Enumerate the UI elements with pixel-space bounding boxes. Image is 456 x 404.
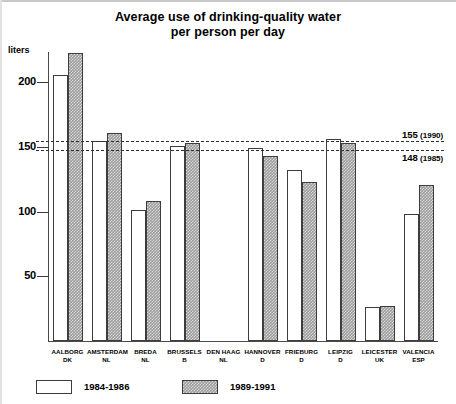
category-country-code: D	[243, 356, 282, 364]
category-country-code: B	[165, 356, 204, 364]
y-axis-tick-label: 100	[8, 205, 36, 217]
chart-legend: 1984-19861989-1991	[36, 379, 356, 399]
x-axis-category-label: AMSTERDAMNL	[87, 348, 126, 364]
legend-swatch-1989-1991	[182, 380, 218, 394]
x-axis-category-label: VALENCIAESP	[399, 348, 438, 364]
y-axis-tick-mark	[37, 212, 49, 213]
bar-aalborg-1984-1986	[53, 75, 68, 341]
category-city-name: LEICESTER	[362, 348, 398, 355]
y-axis-tick-mark	[37, 82, 49, 83]
category-country-code: D	[321, 356, 360, 364]
bar-aalborg-1989-1991	[68, 53, 83, 341]
reference-year: (1985)	[418, 154, 443, 163]
reference-line-155	[36, 141, 444, 142]
category-city-name: DEN HAAG	[207, 348, 241, 355]
y-axis-tick-label: 150	[8, 140, 36, 152]
y-axis-tick-mark	[37, 276, 49, 277]
water-usage-bar-chart: Average use of drinking-quality water pe…	[0, 0, 456, 404]
reference-line-148	[36, 150, 444, 151]
bar-valencia-1989-1991	[419, 185, 434, 341]
category-city-name: FRIEBURG	[285, 348, 318, 355]
bar-valencia-1984-1986	[404, 214, 419, 341]
category-country-code: NL	[87, 356, 126, 364]
x-axis-category-label: HANNOVERD	[243, 348, 282, 364]
category-city-name: BRUSSELS	[167, 348, 202, 355]
bar-breda-1984-1986	[131, 210, 146, 341]
bar-leipzig-1989-1991	[341, 143, 356, 341]
bar-hannover-1989-1991	[263, 156, 278, 341]
legend-swatch-1984-1986	[36, 380, 72, 394]
bar-amsterdam-1984-1986	[92, 141, 107, 341]
y-axis-tick-label: 50	[8, 269, 36, 281]
x-axis-category-label: BRUSSELSB	[165, 348, 204, 364]
x-axis-category-label: BREDANL	[126, 348, 165, 364]
bar-hannover-1984-1986	[248, 148, 263, 341]
plot-area: 50100150200AALBORGDKAMSTERDAMNLBREDANLBR…	[0, 0, 456, 404]
reference-line-label-148: 148 (1985)	[402, 152, 443, 163]
category-city-name: VALENCIA	[403, 348, 435, 355]
category-country-code: ESP	[399, 356, 438, 364]
category-country-code: D	[282, 356, 321, 364]
x-axis-category-label: FRIEBURGD	[282, 348, 321, 364]
category-country-code: UK	[360, 356, 399, 364]
bar-brussels-1989-1991	[185, 143, 200, 341]
category-country-code: NL	[204, 356, 243, 364]
bar-breda-1989-1991	[146, 201, 161, 341]
category-country-code: NL	[126, 356, 165, 364]
legend-label: 1989-1991	[230, 381, 275, 392]
reference-year: (1990)	[418, 131, 443, 140]
legend-label: 1984-1986	[84, 381, 129, 392]
reference-value: 148	[402, 152, 418, 163]
category-city-name: AALBORG	[52, 348, 84, 355]
category-city-name: BREDA	[134, 348, 157, 355]
y-axis-tick-mark	[37, 147, 49, 148]
bar-leicester-1984-1986	[365, 307, 380, 341]
y-axis-tick-label: 200	[8, 75, 36, 87]
bar-leicester-1989-1991	[380, 306, 395, 341]
x-axis-category-label: AALBORGDK	[48, 348, 87, 364]
x-axis-category-label: DEN HAAGNL	[204, 348, 243, 364]
bar-leipzig-1984-1986	[326, 139, 341, 341]
bar-frieburg-1984-1986	[287, 170, 302, 341]
category-city-name: LEIPZIG	[328, 348, 353, 355]
reference-line-label-155: 155 (1990)	[402, 129, 443, 140]
bar-amsterdam-1989-1991	[107, 133, 122, 341]
category-country-code: DK	[48, 356, 87, 364]
bar-brussels-1984-1986	[170, 146, 185, 341]
category-city-name: AMSTERDAM	[87, 348, 128, 355]
category-city-name: HANNOVER	[244, 348, 280, 355]
x-axis-category-label: LEIPZIGD	[321, 348, 360, 364]
x-axis-category-label: LEICESTERUK	[360, 348, 399, 364]
bar-frieburg-1989-1991	[302, 182, 317, 341]
reference-value: 155	[402, 129, 418, 140]
